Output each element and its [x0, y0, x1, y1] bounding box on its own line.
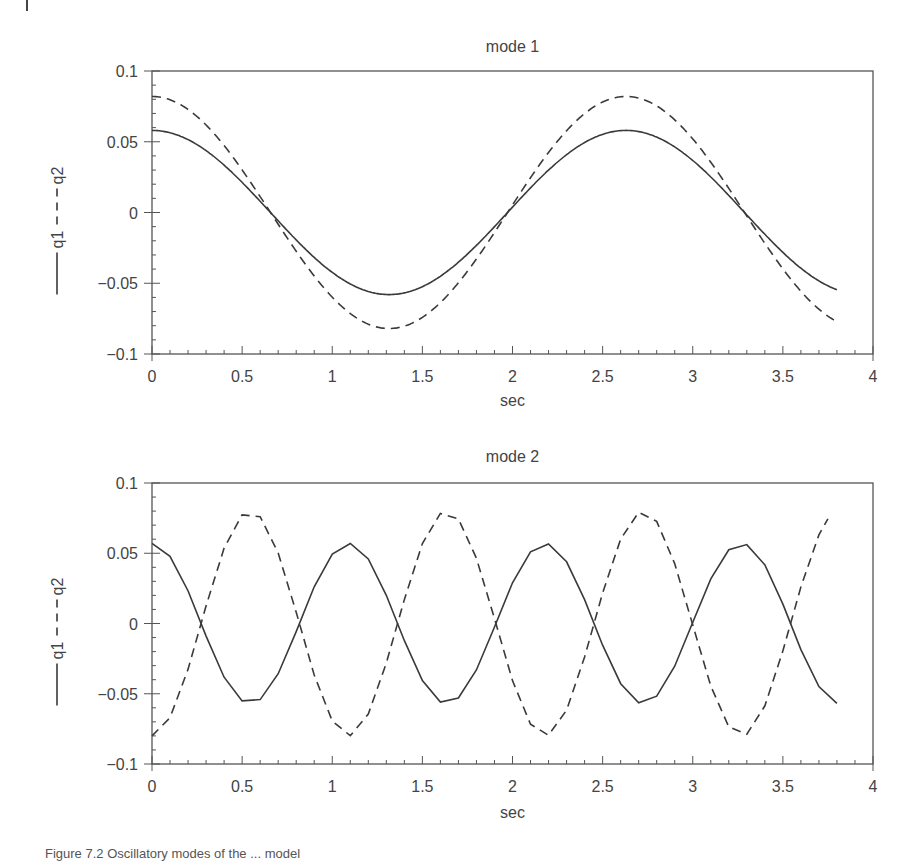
x-tick-label: 2.5	[592, 368, 614, 385]
x-tick-label: 0	[148, 368, 157, 385]
x-tick-label: 4	[869, 368, 878, 385]
svg-text:q2: q2	[49, 578, 66, 596]
y-tick-label: 0.05	[107, 134, 138, 151]
figure-caption: Figure 7.2 Oscillatory modes of the ... …	[45, 846, 300, 861]
x-tick-label: 1.5	[411, 368, 433, 385]
plot-frame	[152, 483, 873, 764]
y-tick-label: 0.05	[107, 545, 138, 562]
y-tick-label: 0.1	[116, 475, 138, 492]
chart-title: mode 2	[486, 448, 539, 465]
plot-frame	[152, 71, 873, 354]
y-axis-label-legend: q1q2	[49, 578, 66, 706]
x-tick-label: 1.5	[411, 778, 433, 795]
y-tick-label: 0.1	[116, 63, 138, 80]
svg-text:q1: q1	[49, 642, 66, 660]
y-tick-label: −0.1	[106, 756, 138, 773]
svg-text:q1: q1	[49, 231, 66, 249]
x-tick-label: 3.5	[772, 778, 794, 795]
x-tick-label: 0.5	[231, 778, 253, 795]
x-tick-label: 3	[688, 778, 697, 795]
x-tick-label: 3	[688, 368, 697, 385]
x-tick-label: 2	[508, 778, 517, 795]
chart-title: mode 1	[486, 38, 539, 55]
series-q2-line	[152, 97, 837, 329]
y-tick-label: 0	[129, 616, 138, 633]
y-axis-label-legend: q1q2	[49, 167, 66, 295]
y-tick-label: 0	[129, 205, 138, 222]
x-tick-label: 4	[869, 778, 878, 795]
x-tick-label: 2	[508, 368, 517, 385]
x-tick-label: 3.5	[772, 368, 794, 385]
series-q1-line	[152, 543, 837, 703]
x-tick-label: 1	[328, 778, 337, 795]
x-axis-label: sec	[500, 392, 525, 409]
series-q2-line	[152, 512, 828, 736]
x-tick-label: 1	[328, 368, 337, 385]
x-tick-label: 0.5	[231, 368, 253, 385]
y-tick-label: −0.1	[106, 346, 138, 363]
svg-text:q2: q2	[49, 167, 66, 185]
series-q1-line	[152, 130, 837, 294]
chart-2: 00.511.522.533.540.10.050−0.05−0.1mode 2…	[49, 448, 878, 821]
x-tick-label: 2.5	[592, 778, 614, 795]
x-tick-label: 0	[148, 778, 157, 795]
y-tick-label: −0.05	[98, 275, 139, 292]
y-tick-label: −0.05	[98, 686, 139, 703]
x-axis-label: sec	[500, 804, 525, 821]
chart-1: 00.511.522.533.540.10.050−0.05−0.1mode 1…	[49, 38, 878, 409]
